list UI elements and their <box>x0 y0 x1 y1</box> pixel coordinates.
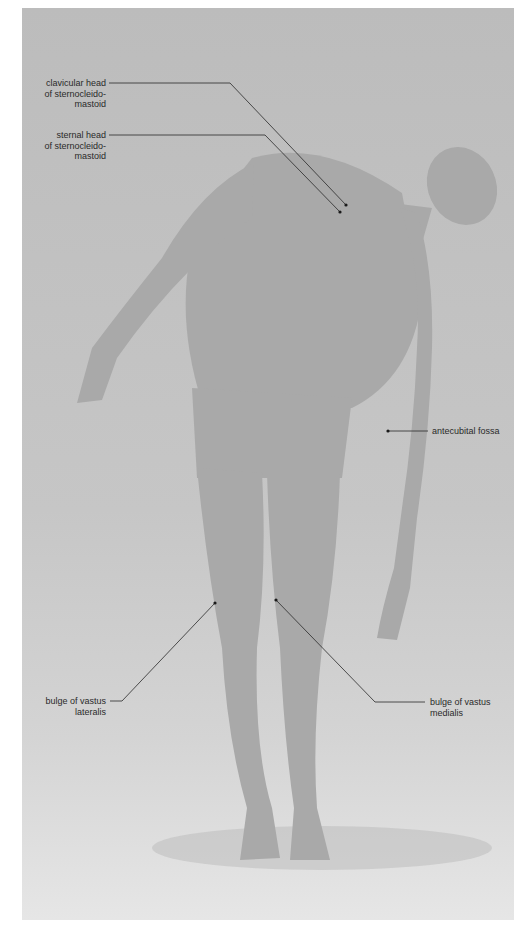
label-antecubital-fossa: antecubital fossa <box>432 426 522 437</box>
label-vastus-lateralis: bulge of vastus lateralis <box>20 696 106 717</box>
label-vastus-medialis: bulge of vastus medialis <box>430 697 520 718</box>
label-sternal-head: sternal head of sternocleido- mastoid <box>20 130 106 162</box>
label-clavicular-head: clavicular head of sternocleido- mastoid <box>20 78 106 110</box>
